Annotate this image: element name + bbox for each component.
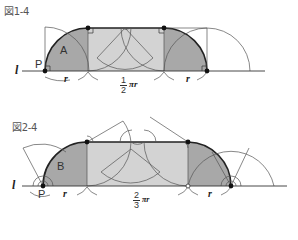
middle-rectangle-1 — [88, 28, 164, 71]
line-l-label-1: l — [15, 63, 18, 78]
figure-2 — [22, 117, 287, 196]
point-p-label-2: P — [38, 188, 45, 200]
fraction-denominator-1: 2 — [121, 86, 126, 95]
point-p-label-1: P — [35, 58, 42, 70]
fraction-denominator-2: 3 — [134, 201, 139, 210]
fraction-numerator-1: 1 — [121, 76, 126, 85]
point-p-1 — [43, 69, 48, 74]
middle-rectangle-2 — [87, 142, 188, 186]
arc-length-2: 2 3 πr — [133, 191, 149, 210]
pi-r-1: πr — [129, 79, 137, 89]
region-b-label: B — [57, 160, 64, 172]
fraction-numerator-2: 2 — [134, 191, 139, 200]
radius-label-2: r — [63, 188, 67, 199]
radius-label-1-right: r — [186, 73, 190, 84]
figure-1 — [22, 26, 265, 81]
pi-r-2: πr — [142, 195, 149, 204]
region-a-label: A — [60, 44, 67, 56]
radius-label-1-left: r — [64, 73, 68, 84]
arc-length-1: 1 2 πr — [120, 76, 137, 95]
radius-label-2-right: r — [208, 188, 212, 199]
line-l-label-2: l — [12, 178, 15, 193]
